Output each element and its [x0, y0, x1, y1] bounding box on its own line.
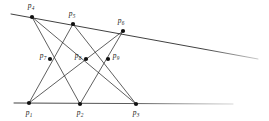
point-marker-p6 — [121, 29, 125, 33]
point-label-p8: p8 — [75, 52, 81, 60]
point-marker-p4 — [30, 15, 34, 19]
connector-p2-p4 — [32, 17, 80, 104]
point-label-p1: p1 — [26, 109, 32, 117]
point-marker-p1 — [27, 101, 31, 105]
point-label-subscript: 7 — [44, 55, 47, 61]
point-marker-p9 — [106, 57, 110, 61]
connector-p1-p6 — [29, 31, 123, 103]
point-label-p3: p3 — [133, 109, 139, 117]
point-label-subscript: 8 — [79, 55, 82, 61]
diagram-canvas — [0, 0, 269, 121]
point-label-subscript: 5 — [73, 13, 76, 19]
connector-p3-p5 — [73, 24, 136, 104]
point-marker-p2 — [78, 102, 82, 106]
point-label-p5: p5 — [69, 10, 75, 18]
connector-p1-p5 — [29, 24, 73, 103]
upper-base-line — [11, 14, 258, 59]
point-label-subscript: 3 — [137, 112, 140, 118]
connector-p2-p6 — [80, 31, 123, 104]
point-label-p6: p6 — [118, 17, 124, 25]
point-label-p7: p7 — [40, 52, 46, 60]
point-marker-p8 — [84, 57, 88, 61]
point-label-p4: p4 — [28, 2, 34, 10]
point-label-p2: p2 — [77, 109, 83, 117]
point-label-subscript: 1 — [30, 112, 33, 118]
point-marker-p7 — [48, 57, 52, 61]
point-label-p9: p9 — [113, 52, 119, 60]
point-label-subscript: 2 — [81, 112, 84, 118]
pappus-diagram: p1p2p3p4p5p6p7p8p9 — [0, 0, 269, 121]
point-marker-p3 — [134, 102, 138, 106]
point-label-subscript: 6 — [122, 20, 125, 26]
connector-p3-p4 — [32, 17, 136, 104]
point-marker-p5 — [71, 22, 75, 26]
lower-base-line — [14, 103, 233, 104]
point-label-subscript: 9 — [117, 55, 120, 61]
point-label-subscript: 4 — [32, 5, 35, 11]
